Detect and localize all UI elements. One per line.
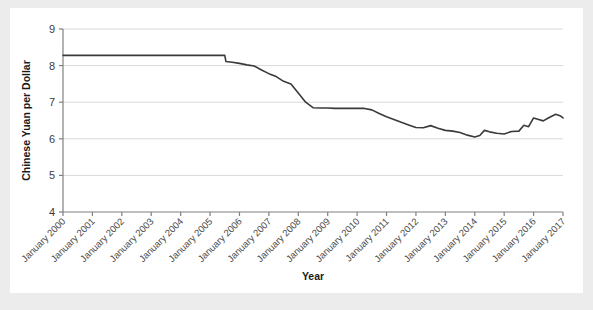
x-axis-tick-labels: January 2000January 2001January 2002Janu… bbox=[19, 216, 567, 264]
series-chinese-yuan-per-dollar bbox=[63, 55, 563, 137]
gridlines bbox=[63, 29, 563, 175]
y-tick-label-7: 7 bbox=[49, 96, 55, 108]
figure-panel: 456789 January 2000January 2001January 2… bbox=[10, 8, 583, 293]
x-axis-title: Year bbox=[302, 270, 324, 282]
line-chart: 456789 January 2000January 2001January 2… bbox=[10, 8, 583, 293]
y-axis-title: Chinese Yuan per Dollar bbox=[20, 60, 32, 181]
y-tick-label-5: 5 bbox=[49, 169, 55, 181]
y-tick-label-6: 6 bbox=[49, 133, 55, 145]
y-axis-tick-labels: 456789 bbox=[49, 23, 55, 218]
y-tick-label-9: 9 bbox=[49, 23, 55, 35]
plot-area: 456789 January 2000January 2001January 2… bbox=[10, 8, 583, 293]
chart-screenshot: 456789 January 2000January 2001January 2… bbox=[0, 0, 593, 310]
outer-frame: 456789 January 2000January 2001January 2… bbox=[0, 0, 593, 310]
y-tick-label-8: 8 bbox=[49, 60, 55, 72]
data-series-line bbox=[63, 55, 563, 137]
y-tick-label-4: 4 bbox=[49, 206, 55, 218]
x-axis-ticks bbox=[63, 212, 563, 216]
